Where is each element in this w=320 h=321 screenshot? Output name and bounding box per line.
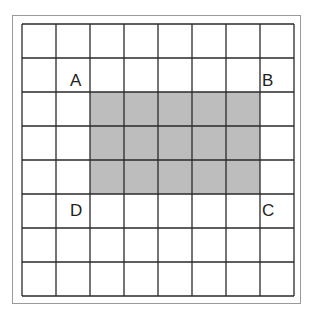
corner-label-a: A xyxy=(70,72,81,89)
corner-label-c: C xyxy=(262,202,274,219)
grid xyxy=(21,23,295,297)
corner-label-d: D xyxy=(70,202,82,219)
corner-label-b: B xyxy=(262,72,273,89)
shaded-rectangle xyxy=(90,92,260,194)
